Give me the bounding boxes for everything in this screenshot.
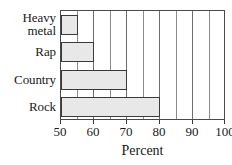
x-axis-tick-label: 100 xyxy=(210,125,232,139)
x-axis-title: Percent xyxy=(60,143,225,158)
category-label-line: Country xyxy=(14,72,56,87)
gridline-minor xyxy=(176,11,177,119)
category-label: Rock xyxy=(0,100,56,113)
x-axis-tick-label: 50 xyxy=(45,125,75,139)
category-label-line: metal xyxy=(0,24,56,37)
bar xyxy=(61,15,78,35)
category-label: Rap xyxy=(0,45,56,58)
x-axis-tick-label: 90 xyxy=(177,125,207,139)
category-label: Country xyxy=(0,73,56,86)
category-axis: HeavymetalRapCountryRock xyxy=(0,10,58,120)
plot-area xyxy=(60,10,225,120)
x-axis-tick-label: 60 xyxy=(78,125,108,139)
category-label-line: Rap xyxy=(35,44,56,59)
category-label-line: Rock xyxy=(29,99,56,114)
bar-chart: HeavymetalRapCountryRock Percent 5060708… xyxy=(0,0,232,165)
bar xyxy=(61,42,94,62)
bar xyxy=(61,70,127,90)
bar xyxy=(61,97,160,117)
category-label: Heavymetal xyxy=(0,11,56,37)
gridline-major xyxy=(192,11,193,119)
gridline-minor xyxy=(209,11,210,119)
x-axis-tick-label: 70 xyxy=(111,125,141,139)
x-axis-tick-label: 80 xyxy=(144,125,174,139)
